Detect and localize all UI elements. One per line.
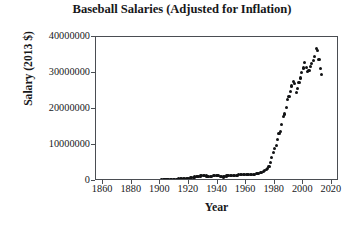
x-tick-mark [217,180,218,184]
data-point [313,55,316,58]
y-tick-label: 20000000 [49,103,90,113]
chart-figure: Baseball Salaries (Adjusted for Inflatio… [0,0,364,226]
x-tick-mark [102,180,103,184]
scatter-series [96,37,337,179]
data-point [309,65,312,68]
y-tick-label: 10000000 [49,139,90,149]
data-point [303,61,306,64]
x-tick-mark [331,180,332,184]
data-point [300,71,303,74]
data-point [316,49,319,52]
data-point [287,95,290,98]
x-tick-mark [245,180,246,184]
y-tick-mark [91,180,95,181]
y-tick-label: 40000000 [49,31,90,41]
data-point [312,59,315,62]
data-point [272,151,275,154]
x-tick-mark [274,180,275,184]
data-point [269,161,272,164]
chart-title: Baseball Salaries (Adjusted for Inflatio… [0,2,364,17]
data-point [297,81,300,84]
x-tick-mark [159,180,160,184]
data-point [295,91,298,94]
data-point [270,156,273,159]
y-tick-label: 30000000 [49,67,90,77]
data-point [299,76,302,79]
data-point [282,115,285,118]
data-point [273,147,276,150]
data-point [317,58,320,61]
x-tick-mark [302,180,303,184]
data-point [296,87,299,90]
data-point [289,90,292,93]
x-tick-label: 2020 [311,183,351,194]
data-point [307,69,310,72]
data-point [275,144,278,147]
y-axis-label: Salary (2013 $) [22,4,35,134]
data-point [286,98,289,101]
x-tick-mark [131,180,132,184]
data-point [319,67,322,70]
data-point [285,106,288,109]
data-point [279,130,282,133]
data-point [283,112,286,115]
data-point [280,123,283,126]
data-point [320,73,323,76]
plot-area [95,36,338,180]
data-point [290,84,293,87]
data-point [310,62,313,65]
data-point [267,165,270,168]
data-point [276,138,279,141]
data-point [293,82,296,85]
x-tick-mark [188,180,189,184]
x-axis-label: Year [95,200,338,215]
